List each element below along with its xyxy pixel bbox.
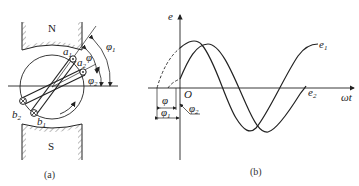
curve-e1	[180, 41, 318, 131]
origin-label: O	[184, 88, 192, 100]
label-b1: b1	[37, 115, 46, 129]
caption-b: (b)	[250, 166, 262, 178]
e-axis-label: e	[168, 10, 173, 22]
label-phi: φ	[86, 51, 92, 63]
north-pole-label: N	[48, 22, 56, 34]
curve-e1-dashed-segment	[157, 48, 180, 88]
curve-e1-label: e1	[319, 38, 327, 52]
omega-t-axis-label: ωt	[341, 91, 353, 103]
curve-e2-dashed-segment	[168, 79, 180, 88]
angle-phi2-arc	[99, 71, 101, 86]
phi2-label: φ2	[189, 102, 199, 116]
south-pole-label: S	[48, 140, 54, 152]
label-b2: b2	[12, 108, 22, 122]
figure-a-generator: N S	[8, 22, 118, 181]
caption-a: (a)	[44, 169, 55, 181]
figure-b-waveforms: e ωt O e1 e2 φ φ1 φ2 (b)	[148, 10, 354, 178]
label-phi1: φ1	[106, 40, 116, 54]
diagram-canvas: N S	[0, 0, 359, 186]
label-phi2: φ2	[88, 74, 98, 88]
phi-label: φ	[162, 94, 168, 106]
rotation-direction-arrow-icon	[60, 102, 75, 114]
